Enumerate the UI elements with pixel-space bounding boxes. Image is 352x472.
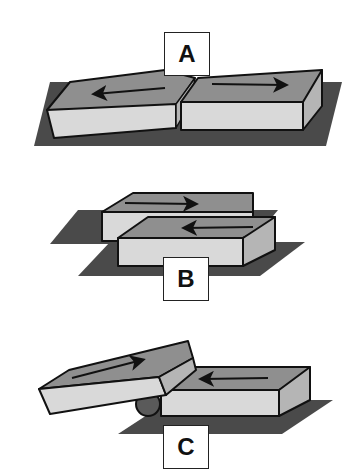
label-c: C xyxy=(163,425,209,469)
panel-c xyxy=(39,341,333,434)
label-a: A xyxy=(164,32,210,76)
block-a-right xyxy=(181,70,322,130)
arrow-left-icon xyxy=(185,227,253,228)
label-b: B xyxy=(163,257,209,301)
panel-a xyxy=(34,70,342,146)
block-a-left xyxy=(47,70,195,138)
arrow-right-icon xyxy=(212,84,285,85)
arrow-left-icon xyxy=(202,378,268,379)
arrow-right-icon xyxy=(125,203,195,204)
